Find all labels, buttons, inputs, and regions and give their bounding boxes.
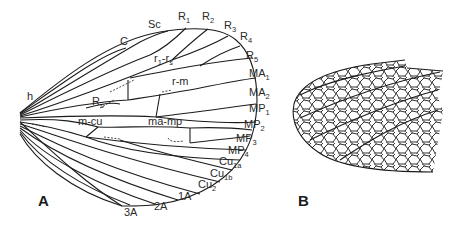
label-MP2: MP2 [244, 118, 265, 133]
label-R3: R3 [224, 19, 236, 34]
wing-b [288, 58, 448, 176]
label-Sc: Sc [148, 18, 161, 30]
label-m-cu: m-cu [78, 115, 102, 127]
panel-label-b: B [298, 192, 309, 209]
wing-a [20, 28, 257, 206]
panel-label-a: A [38, 192, 49, 209]
label-r-m: r-m [172, 75, 189, 87]
label-MA1: MA1 [249, 67, 270, 82]
label-Rs: Rs [92, 95, 104, 110]
label-R4: R4 [240, 30, 252, 45]
label-2A: 2A [154, 200, 168, 212]
wing-a-labels: C Sc R1 R2 R3 R4 R5 MA1 MA2 MP1 MP2 MP3 … [27, 10, 270, 218]
label-C: C [120, 35, 128, 47]
label-R2: R2 [202, 10, 214, 25]
label-ma-mp: ma-mp [148, 115, 182, 127]
label-h: h [27, 90, 33, 102]
label-R1: R1 [178, 10, 190, 25]
label-1A: 1A [178, 190, 192, 202]
label-MA2: MA2 [249, 86, 270, 101]
wing-venation-diagram: C Sc R1 R2 R3 R4 R5 MA1 MA2 MP1 MP2 MP3 … [0, 0, 459, 229]
label-MP1: MP1 [249, 102, 270, 117]
label-R5: R5 [246, 49, 258, 64]
label-r1-rs: r1-rs [154, 52, 173, 67]
label-3A: 3A [124, 206, 138, 218]
